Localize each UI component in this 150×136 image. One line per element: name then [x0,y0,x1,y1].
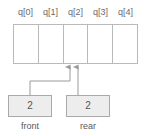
rear-pointer-box: 2 [66,95,110,117]
front-pointer-label: front [8,120,52,132]
queue-array-diagram: q[0] q[1] q[2] q[3] q[4] 2 2 front rear [0,0,150,136]
rear-pointer-label: rear [66,120,110,132]
front-pointer-arrow [30,67,70,95]
front-pointer-box: 2 [8,95,52,117]
